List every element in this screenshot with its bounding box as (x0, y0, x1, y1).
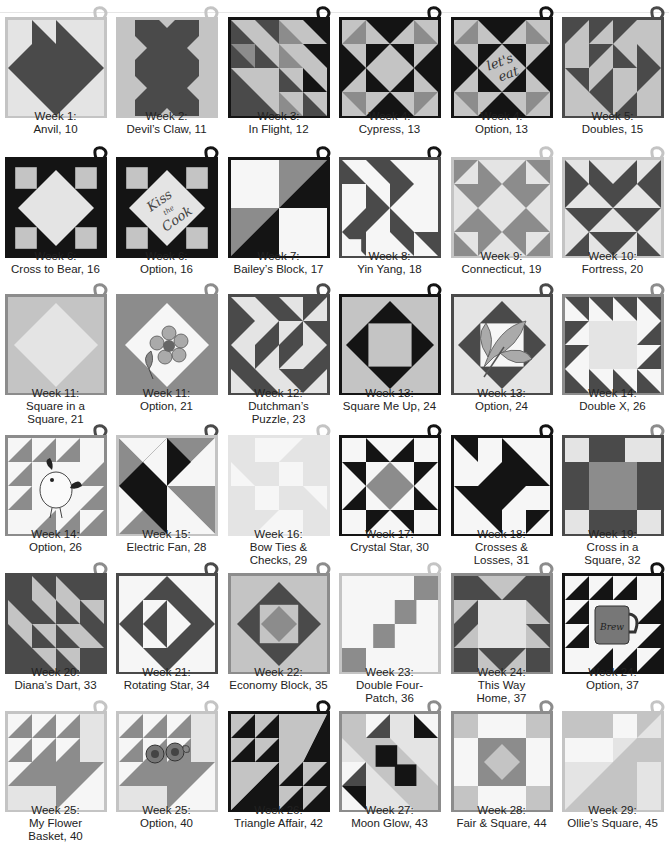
caption-name: Option, 37 (557, 679, 668, 692)
quilt-block-caption: Week 8:Yin Yang, 18 (334, 250, 445, 276)
caption-name: Cross to Bear, 16 (0, 263, 111, 276)
caption-week: Week 18: (446, 528, 557, 541)
caption-name: Option, 24 (446, 400, 557, 413)
caption-name: Double Four- (334, 679, 445, 692)
quilt-potholder-image (446, 283, 558, 395)
quilt-potholder-image (334, 424, 446, 536)
caption-week: Week 28: (446, 804, 557, 817)
quilt-potholder-image (0, 283, 112, 395)
caption-name: Connecticut, 19 (446, 263, 557, 276)
caption-name: Rotating Star, 34 (111, 679, 222, 692)
quilt-block-caption: Week 25:My FlowerBasket, 40 (0, 804, 111, 843)
quilt-block-caption: Week 14:Option, 26 (0, 528, 111, 554)
caption-week: Week 4: (446, 110, 557, 123)
quilt-block-caption: Week 22:Economy Block, 35 (223, 666, 334, 692)
quilt-block-caption: Week 24:Option, 37 (557, 666, 668, 692)
quilt-block-caption: Week 3:In Flight, 12 (223, 110, 334, 136)
quilt-potholder-image (111, 283, 223, 395)
caption-week: Week 27: (334, 804, 445, 817)
caption-week: Week 11: (0, 387, 111, 400)
caption-name: Dutchman’s (223, 400, 334, 413)
caption-name: Doubles, 15 (557, 123, 668, 136)
quilt-block-caption: Week 4:Cypress, 13 (334, 110, 445, 136)
caption-week: Week 19: (557, 528, 668, 541)
caption-name: Option, 40 (111, 817, 222, 830)
caption-name: Cypress, 13 (334, 123, 445, 136)
caption-week: Week 7: (223, 250, 334, 263)
quilt-potholder-image (557, 700, 669, 812)
caption-week: Week 14: (557, 387, 668, 400)
caption-week: Week 6: (0, 250, 111, 263)
quilt-potholder-image (111, 6, 223, 118)
caption-name: Moon Glow, 43 (334, 817, 445, 830)
quilt-potholder-image: KisstheCook (111, 146, 223, 258)
quilt-potholder-image (111, 562, 223, 674)
caption-week: Week 25: (111, 804, 222, 817)
caption-week: Week 24: (557, 666, 668, 679)
caption-name: Double X, 26 (557, 400, 668, 413)
quilt-potholder-image (111, 424, 223, 536)
quilt-potholder-image (557, 146, 669, 258)
caption-week: Week 2: (111, 110, 222, 123)
caption-week: Week 12: (223, 387, 334, 400)
quilt-potholder-image (223, 6, 335, 118)
caption-week: Week 17: (334, 528, 445, 541)
quilt-block-caption: Week 14:Double X, 26 (557, 387, 668, 413)
quilt-potholder-image (0, 700, 112, 812)
quilt-block-caption: Week 6:Option, 16 (111, 250, 222, 276)
caption-week: Week 26: (223, 804, 334, 817)
caption-week: Week 10: (557, 250, 668, 263)
quilt-block-caption: Week 26:Triangle Affair, 42 (223, 804, 334, 830)
caption-week: Week 4: (334, 110, 445, 123)
caption-name: Crosses & (446, 541, 557, 554)
caption-week: Week 11: (111, 387, 222, 400)
quilt-potholder-image (446, 562, 558, 674)
quilt-block-caption: Week 6:Cross to Bear, 16 (0, 250, 111, 276)
caption-week: Week 20: (0, 666, 111, 679)
quilt-block-caption: Week 20:Diana’s Dart, 33 (0, 666, 111, 692)
quilt-potholder-image (334, 146, 446, 258)
caption-week: Week 29: (557, 804, 668, 817)
caption-week: Week 16: (223, 528, 334, 541)
caption-week: Week 3: (223, 110, 334, 123)
quilt-potholder-image (446, 700, 558, 812)
quilt-potholder-image (557, 6, 669, 118)
quilt-block-caption: Week 29:Ollie’s Square, 45 (557, 804, 668, 830)
caption-week: Week 13: (334, 387, 445, 400)
quilt-block-caption: Week 25:Option, 40 (111, 804, 222, 830)
caption-name: Option, 16 (111, 263, 222, 276)
caption-name: Cross in a (557, 541, 668, 554)
caption-name: This Way (446, 679, 557, 692)
quilt-potholder-image (446, 146, 558, 258)
quilt-block-caption: Week 10:Fortress, 20 (557, 250, 668, 276)
quilt-potholder-image (223, 283, 335, 395)
quilt-potholder-image: Brew (557, 562, 669, 674)
quilt-potholder-image (0, 6, 112, 118)
caption-week: Week 23: (334, 666, 445, 679)
caption-name: Option, 26 (0, 541, 111, 554)
quilt-potholder-image (223, 424, 335, 536)
caption-week: Week 6: (111, 250, 222, 263)
caption-name: Basket, 40 (0, 830, 111, 843)
quilt-block-caption: Week 12:Dutchman’sPuzzle, 23 (223, 387, 334, 426)
caption-name: Diana’s Dart, 33 (0, 679, 111, 692)
quilt-block-caption: Week 7:Bailey’s Block, 17 (223, 250, 334, 276)
caption-name: Economy Block, 35 (223, 679, 334, 692)
caption-name: Bow Ties & (223, 541, 334, 554)
quilt-block-caption: Week 11:Square in aSquare, 21 (0, 387, 111, 426)
caption-name: Fair & Square, 44 (446, 817, 557, 830)
quilt-potholder-image: let'seat (446, 6, 558, 118)
quilt-block-caption: Week 28:Fair & Square, 44 (446, 804, 557, 830)
caption-name: Ollie’s Square, 45 (557, 817, 668, 830)
caption-name: Square Me Up, 24 (334, 400, 445, 413)
quilt-block-caption: Week 11:Option, 21 (111, 387, 222, 413)
quilt-block-caption: Week 1:Anvil, 10 (0, 110, 111, 136)
quilt-block-caption: Week 15:Electric Fan, 28 (111, 528, 222, 554)
caption-week: Week 9: (446, 250, 557, 263)
quilt-potholder-image (0, 424, 112, 536)
caption-week: Week 24: (446, 666, 557, 679)
caption-week: Week 15: (111, 528, 222, 541)
quilt-potholder-image (223, 562, 335, 674)
svg-text:Brew: Brew (599, 622, 624, 632)
quilt-potholder-image (223, 700, 335, 812)
